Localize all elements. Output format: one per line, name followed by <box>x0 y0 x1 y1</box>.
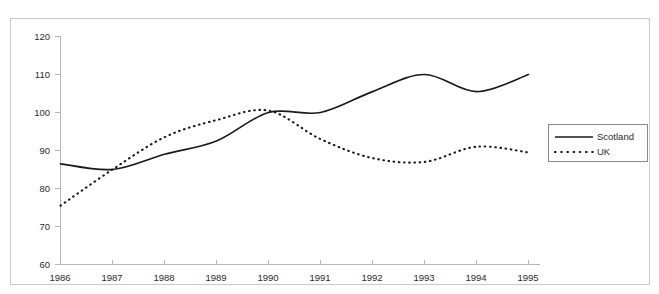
legend-label-scotland: Scotland <box>597 131 634 142</box>
series-line-uk <box>61 110 529 206</box>
legend-swatch-dotted-icon <box>554 147 594 157</box>
x-tick-label-1987: 1987 <box>101 272 122 283</box>
chart-legend: Scotland UK <box>548 124 648 162</box>
y-tick-marks <box>55 37 61 265</box>
y-tick-label-110: 110 <box>35 69 50 80</box>
y-tick-label-90: 90 <box>39 145 50 156</box>
x-tick-label-1995: 1995 <box>517 272 538 283</box>
y-axis: 120 110 100 90 80 70 60 <box>34 31 60 270</box>
y-tick-label-60: 60 <box>39 259 50 270</box>
legend-entry-scotland: Scotland <box>554 129 647 144</box>
y-tick-label-100: 100 <box>34 107 50 118</box>
x-tick-label-1994: 1994 <box>465 272 486 283</box>
legend-entry-uk: UK <box>554 144 647 159</box>
x-tick-label-1989: 1989 <box>205 272 226 283</box>
x-tick-label-1986: 1986 <box>49 272 70 283</box>
x-tick-label-1988: 1988 <box>153 272 174 283</box>
x-tick-marks <box>61 260 529 265</box>
x-tick-label-1990: 1990 <box>257 272 278 283</box>
x-tick-label-1992: 1992 <box>361 272 382 283</box>
x-tick-label-1993: 1993 <box>413 272 434 283</box>
legend-label-uk: UK <box>597 146 610 157</box>
x-axis: 1986 1987 1988 1989 1990 1991 1992 1993 … <box>49 260 540 283</box>
x-tick-label-1991: 1991 <box>309 272 330 283</box>
y-tick-label-70: 70 <box>39 221 50 232</box>
y-tick-label-120: 120 <box>34 31 50 42</box>
y-tick-label-80: 80 <box>39 183 50 194</box>
legend-swatch-solid-icon <box>554 132 594 142</box>
